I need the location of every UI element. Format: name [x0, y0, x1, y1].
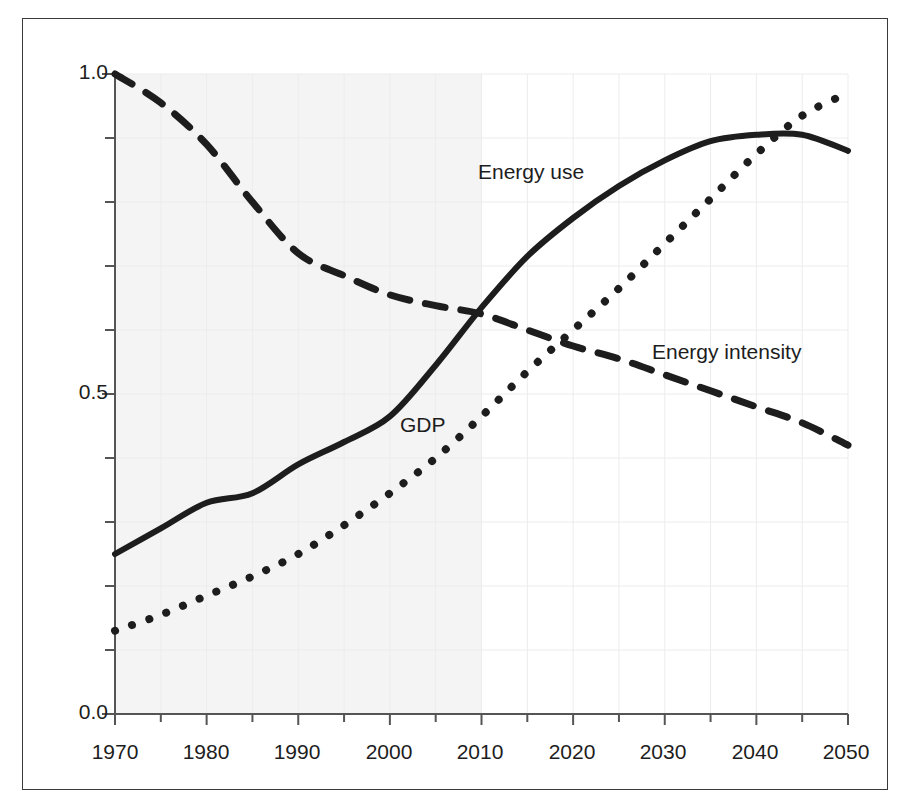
line-chart-svg — [0, 0, 905, 810]
x-tick-label-2020: 2020 — [537, 740, 607, 764]
chart-plot-area: 1.0 0.5 0.0 1970 1980 1990 2000 2010 202… — [0, 0, 905, 810]
y-tick-label-1: 1.0 — [48, 60, 108, 84]
series-label-gdp: GDP — [400, 413, 446, 437]
x-tick-label-1990: 1990 — [262, 740, 332, 764]
series-label-energy-intensity: Energy intensity — [652, 340, 801, 364]
x-tick-label-1980: 1980 — [171, 740, 241, 764]
series-label-energy-use: Energy use — [478, 160, 584, 184]
y-tick-label-2: 0.5 — [48, 380, 108, 404]
x-tick-label-2050: 2050 — [811, 740, 881, 764]
x-tick-label-2030: 2030 — [628, 740, 698, 764]
x-tick-label-2010: 2010 — [445, 740, 515, 764]
y-tick-label-3: 0.0 — [48, 700, 108, 724]
x-tick-label-2000: 2000 — [354, 740, 424, 764]
x-tick-label-2040: 2040 — [720, 740, 790, 764]
x-tick-label-1970: 1970 — [80, 740, 150, 764]
